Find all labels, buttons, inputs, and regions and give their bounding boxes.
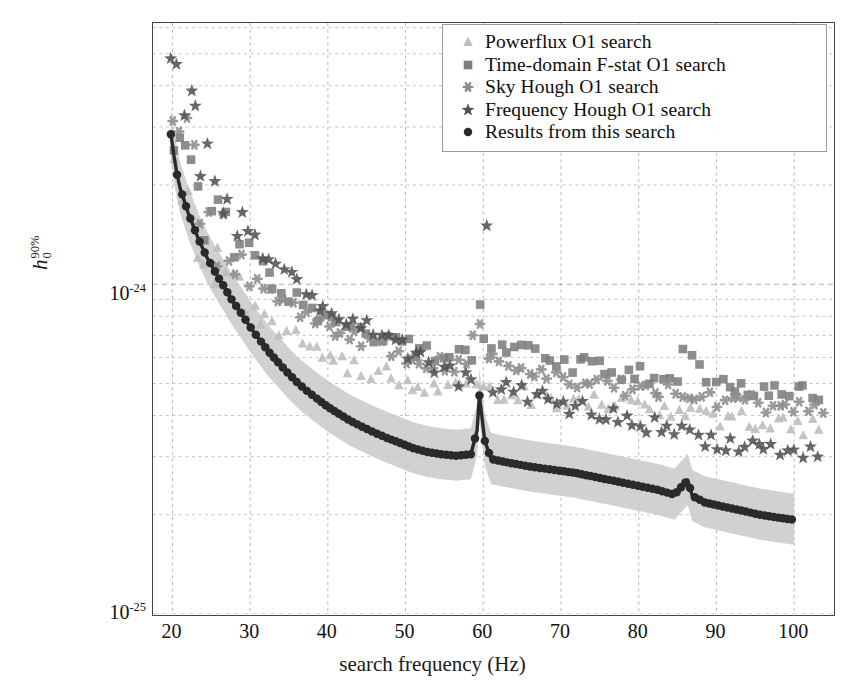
y-tick-exponent-0: -24	[129, 281, 146, 295]
x-tick-label-40: 40	[317, 620, 337, 643]
marker-asterisk	[819, 409, 827, 416]
marker-asterisk	[810, 401, 818, 408]
marker-square	[235, 240, 244, 249]
marker-square	[595, 356, 604, 365]
marker-triangle	[715, 421, 725, 430]
marker-square	[461, 346, 470, 355]
marker-asterisk	[781, 401, 789, 408]
marker-star	[278, 263, 291, 275]
marker-asterisk	[462, 360, 470, 367]
marker-triangle	[429, 378, 439, 387]
marker-triangle	[386, 373, 396, 382]
marker-triangle	[282, 326, 292, 335]
marker-square	[785, 392, 794, 401]
marker-star	[236, 206, 249, 218]
marker-asterisk	[517, 364, 525, 371]
marker-square	[650, 374, 659, 383]
marker-triangle	[343, 368, 353, 377]
marker-triangle	[799, 430, 809, 439]
marker-square	[568, 368, 577, 377]
marker-triangle	[298, 338, 308, 347]
marker-star	[719, 444, 732, 456]
marker-triangle	[382, 361, 392, 370]
marker-asterisk	[592, 376, 600, 383]
legend-label: Results from this search	[485, 121, 675, 143]
marker-square	[679, 345, 688, 354]
marker-square	[187, 155, 196, 164]
marker-asterisk	[552, 369, 560, 376]
y-tick-label-1e-25: 10-25	[109, 600, 146, 624]
marker-triangle	[695, 403, 705, 412]
marker-asterisk	[476, 320, 484, 327]
marker-asterisk	[789, 408, 797, 415]
x-tick-label-70: 70	[550, 620, 570, 643]
marker-triangle	[394, 380, 404, 389]
marker-asterisk	[706, 389, 714, 396]
marker-asterisk	[654, 393, 662, 400]
marker-square	[531, 344, 540, 353]
marker-square	[607, 368, 616, 377]
marker-triangle	[373, 366, 383, 375]
x-tick-label-50: 50	[395, 620, 415, 643]
marker-square	[422, 341, 431, 350]
marker-square	[798, 381, 807, 390]
legend-label: Powerflux O1 search	[485, 31, 652, 53]
marker-triangle	[433, 386, 443, 395]
marker-asterisk	[387, 353, 395, 360]
legend-item-frequency-hough-o1-search[interactable]: Frequency Hough O1 search	[451, 99, 816, 122]
marker-asterisk	[302, 309, 310, 316]
marker-triangle	[814, 425, 824, 434]
marker-asterisk	[664, 381, 672, 388]
legend-label: Sky Hough O1 search	[485, 76, 659, 98]
x-tick-label-60: 60	[472, 620, 492, 643]
marker-square	[719, 375, 728, 384]
marker-asterisk	[697, 393, 705, 400]
marker-asterisk	[621, 392, 629, 399]
marker-triangle	[403, 375, 413, 384]
series-powerflux-o1-search	[170, 154, 824, 439]
marker-asterisk	[495, 358, 503, 365]
legend-box: Powerflux O1 searchTime-domain F-stat O1…	[442, 24, 827, 152]
marker-asterisk	[205, 208, 213, 215]
marker-square	[194, 182, 203, 191]
marker-square	[445, 353, 454, 362]
marker-asterisk	[394, 348, 402, 355]
marker-asterisk	[573, 384, 581, 391]
legend-item-sky-hough-o1-search[interactable]: Sky Hough O1 search	[451, 76, 816, 99]
marker-square	[464, 60, 473, 69]
marker-star	[705, 428, 718, 440]
marker-asterisk	[336, 329, 344, 336]
legend-item-results-from-this-search[interactable]: Results from this search	[451, 121, 816, 144]
legend-item-time-domain-f-stat-o1-search[interactable]: Time-domain F-stat O1 search	[451, 54, 816, 77]
marker-square	[737, 379, 746, 388]
marker-star	[189, 99, 202, 111]
marker-asterisk	[266, 285, 274, 292]
x-axis-label: search frequency (Hz)	[0, 652, 865, 677]
marker-square	[636, 362, 645, 371]
legend-item-powerflux-o1-search[interactable]: Powerflux O1 search	[451, 31, 816, 54]
marker-asterisk	[504, 362, 512, 369]
marker-star	[480, 219, 493, 231]
marker-asterisk	[537, 366, 545, 373]
marker-star	[201, 137, 214, 149]
marker-asterisk	[357, 343, 365, 350]
marker-star	[804, 440, 817, 452]
marker-asterisk	[713, 403, 721, 410]
marker-asterisk	[530, 373, 538, 380]
marker-square	[476, 300, 485, 309]
marker-triangle	[758, 420, 768, 429]
marker-square	[245, 238, 254, 247]
marker-asterisk	[455, 356, 463, 363]
legend-marker-triangle-icon	[451, 32, 485, 52]
marker-circle	[464, 128, 472, 136]
marker-triangle	[660, 401, 670, 410]
marker-asterisk	[325, 323, 333, 330]
legend-marker-asterisk-icon	[451, 77, 485, 97]
y-tick-exponent-1: -25	[129, 600, 146, 614]
marker-triangle	[633, 396, 643, 405]
marker-asterisk	[436, 353, 444, 360]
marker-star	[797, 451, 810, 463]
legend-label: Time-domain F-stat O1 search	[485, 54, 726, 76]
marker-square	[688, 351, 697, 360]
marker-star	[811, 450, 824, 462]
